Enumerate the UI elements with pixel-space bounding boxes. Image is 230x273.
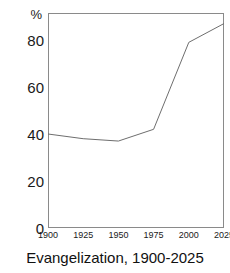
x-tick-label: 1950 — [108, 231, 128, 240]
y-tick-label: 40 — [2, 127, 44, 142]
chart-caption: Evangelization, 1900-2025 — [0, 250, 230, 267]
chart-figure: % 020406080 190019251950197520002025 Eva… — [0, 0, 230, 273]
y-tick-label: 20 — [2, 174, 44, 189]
x-tick-label: 2025 — [214, 231, 230, 240]
data-line-plot — [48, 13, 224, 228]
x-tick-label: 1975 — [144, 231, 164, 240]
x-tick-label: 1900 — [38, 231, 58, 240]
y-tick-label: 60 — [2, 80, 44, 95]
x-tick-label: 2000 — [179, 231, 199, 240]
x-axis-labels: 190019251950197520002025 — [0, 231, 230, 245]
evangelization-line — [48, 24, 224, 142]
y-tick-label: 80 — [2, 33, 44, 48]
x-tick-label: 1925 — [73, 231, 93, 240]
